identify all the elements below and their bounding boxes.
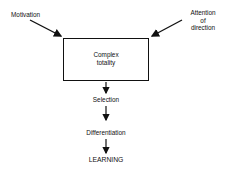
learning-label: LEARNING <box>89 156 124 164</box>
box-line-2: totality <box>64 59 148 67</box>
attention-of-direction-label: Attention of direction <box>186 9 220 32</box>
selection-label: Selection <box>93 96 119 104</box>
motivation-arrow <box>30 20 61 36</box>
attention-arrow <box>152 20 182 36</box>
complex-totality-box: Complex totality <box>63 38 149 81</box>
attention-line-2: of <box>186 17 220 25</box>
box-line-1: Complex <box>64 51 148 59</box>
motivation-label: Motivation <box>11 11 40 19</box>
attention-line-1: Attention <box>186 9 220 17</box>
attention-line-3: direction <box>186 24 220 32</box>
differentiation-label: Differentiation <box>86 129 125 137</box>
